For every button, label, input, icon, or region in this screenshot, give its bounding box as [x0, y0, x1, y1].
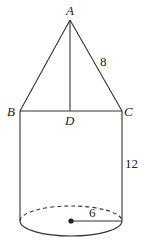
- slant-height-label: 8: [100, 54, 107, 69]
- cylinder-height-label: 12: [125, 156, 138, 171]
- base-center-dot: [68, 218, 73, 223]
- edge-AB: [20, 20, 70, 111]
- label-D: D: [64, 113, 75, 128]
- edge-AC: [70, 20, 122, 111]
- label-A: A: [65, 3, 74, 18]
- radius-label: 6: [89, 205, 96, 220]
- label-C: C: [124, 104, 133, 119]
- label-B: B: [7, 104, 15, 119]
- cone-cylinder-figure: A B C D 8 12 6: [0, 0, 148, 251]
